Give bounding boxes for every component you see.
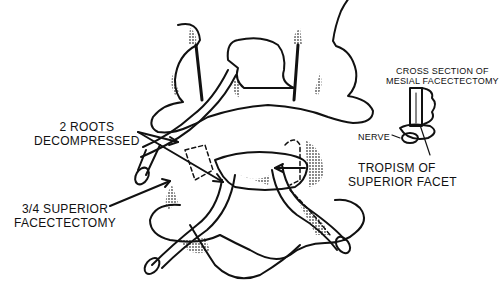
label-roots-decompressed: 2 ROOTS DECOMPRESSED [34, 120, 140, 148]
label-nerve: NERVE [358, 132, 390, 142]
left-lower-root [152, 180, 222, 265]
tropism-line2: SUPERIOR FACET [348, 175, 457, 189]
superior-line1: 3/4 SUPERIOR [14, 202, 116, 216]
label-tropism: TROPISM OF SUPERIOR FACET [348, 161, 457, 189]
roots-line2: DECOMPRESSED [34, 134, 140, 148]
roots-line1: 2 ROOTS [34, 120, 140, 134]
upper-vertebra [151, 0, 373, 132]
label-superior-facectectomy: 3/4 SUPERIOR FACECTECTOMY [14, 202, 116, 230]
left-upper-root [141, 75, 236, 157]
cross-line2: MESIAL FACECTECTOMY [386, 76, 499, 86]
tropism-line1: TROPISM OF [348, 161, 457, 175]
lower-vertebra [215, 152, 307, 190]
cross-line1: CROSS SECTION OF [386, 66, 499, 76]
superior-line2: FACECTECTOMY [14, 216, 116, 230]
cross-section-inset [400, 88, 435, 155]
label-cross-section: CROSS SECTION OF MESIAL FACECTECTOMY [386, 66, 499, 86]
roots-arrow-2 [138, 132, 223, 182]
